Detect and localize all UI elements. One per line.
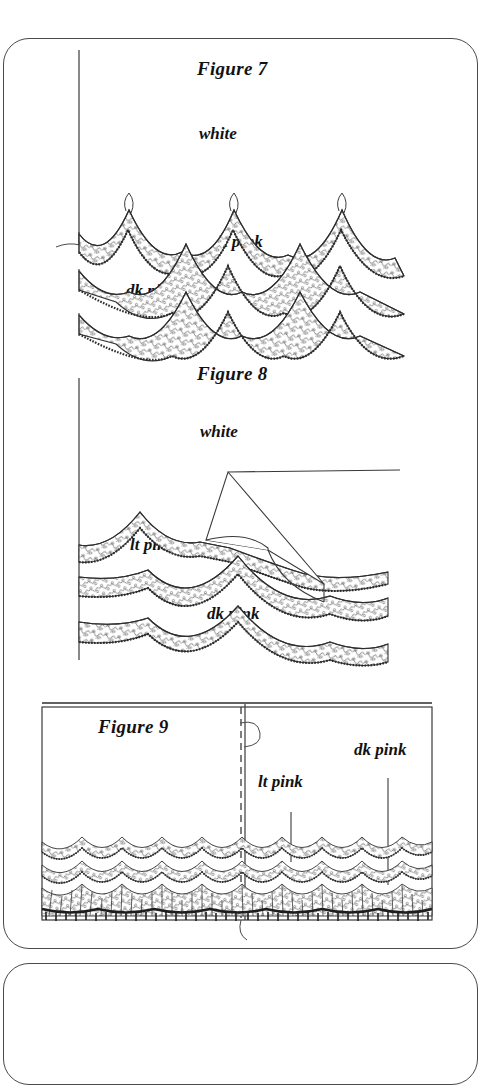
figure-7-artwork <box>0 40 482 340</box>
lace-row-white <box>79 193 404 278</box>
lace-row-dk-pink-ruffle <box>42 884 432 921</box>
lace-row-lt-pink <box>42 861 432 883</box>
lace-row-lt-pink <box>79 244 404 318</box>
figure-8-artwork <box>0 370 482 670</box>
figure-9-artwork <box>0 690 482 950</box>
lace-row-white <box>42 837 432 859</box>
figure-card-next <box>3 963 478 1085</box>
